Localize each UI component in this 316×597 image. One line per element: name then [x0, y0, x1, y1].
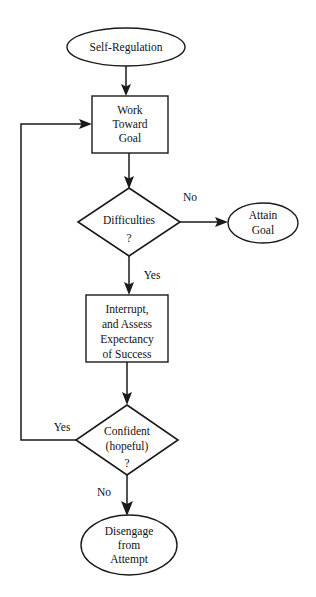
node-attain-goal[interactable]: Attain Goal [228, 203, 298, 243]
work-toward-goal-label-line2: Toward [113, 118, 148, 130]
node-interrupt-assess[interactable]: Interrupt, and Assess Expectancy of Succ… [86, 295, 168, 362]
interrupt-assess-label-line3: Expectancy [100, 333, 154, 346]
work-toward-goal-label-line1: Work [117, 104, 143, 116]
self-regulation-label: Self-Regulation [90, 41, 163, 54]
node-work-toward-goal[interactable]: Work Toward Goal [92, 96, 168, 153]
edge-difficulties-yes-to-interrupt [124, 256, 134, 295]
difficulties-question-mark: ? [126, 232, 131, 244]
interrupt-assess-label-line1: Interrupt, [105, 303, 148, 316]
node-difficulties[interactable]: Difficulties ? [78, 188, 180, 256]
edge-work-to-difficulties [124, 153, 134, 189]
edge-self-regulation-to-work [121, 66, 131, 96]
edge-confident-yes-to-work [21, 119, 92, 440]
disengage-label-line3: Attempt [110, 553, 148, 566]
difficulties-label: Difficulties [103, 214, 156, 226]
disengage-label-line2: from [118, 539, 140, 551]
edge-difficulties-no-to-attain [180, 217, 228, 227]
node-disengage-from-attempt[interactable]: Disengage from Attempt [81, 515, 177, 575]
flowchart-diagram: Self-Regulation Work Toward Goal Difficu… [0, 0, 316, 597]
edge-confident-no-to-disengage [121, 475, 133, 516]
confident-hopeful-label-line1: Confident [104, 425, 151, 437]
interrupt-assess-label-line4: of Success [103, 348, 152, 360]
edge-label-confident-no: No [97, 486, 111, 498]
confident-hopeful-question-mark: ? [124, 457, 129, 469]
confident-hopeful-label-line2: (hopeful) [106, 440, 149, 453]
interrupt-assess-label-line2: and Assess [102, 318, 153, 330]
edge-interrupt-to-confident [122, 362, 132, 405]
attain-goal-label-line2: Goal [252, 224, 274, 236]
node-confident-hopeful[interactable]: Confident (hopeful) ? [76, 405, 178, 475]
edge-label-confident-yes: Yes [54, 421, 71, 433]
attain-goal-label-line1: Attain [249, 209, 278, 221]
work-toward-goal-label-line3: Goal [119, 132, 141, 144]
edge-label-difficulties-yes: Yes [144, 269, 161, 281]
edge-label-difficulties-no: No [183, 191, 197, 203]
disengage-label-line1: Disengage [105, 525, 154, 538]
node-self-regulation[interactable]: Self-Regulation [67, 28, 185, 66]
